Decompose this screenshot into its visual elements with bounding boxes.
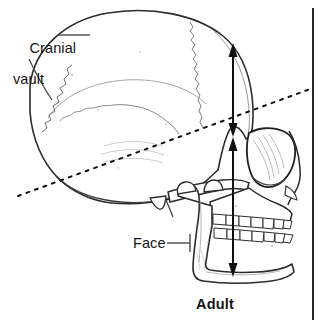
label-cranial-vault-line2: vault xyxy=(13,72,76,88)
label-adult: Adult xyxy=(196,297,234,313)
skull-figure: Cranial vault Face Adult xyxy=(0,0,331,328)
label-cranial-vault: Cranial vault xyxy=(13,25,76,118)
mastoid-process xyxy=(150,196,166,209)
lower-teeth xyxy=(214,228,293,243)
label-face: Face xyxy=(133,236,166,252)
label-cranial-vault-line1: Cranial xyxy=(30,40,77,56)
